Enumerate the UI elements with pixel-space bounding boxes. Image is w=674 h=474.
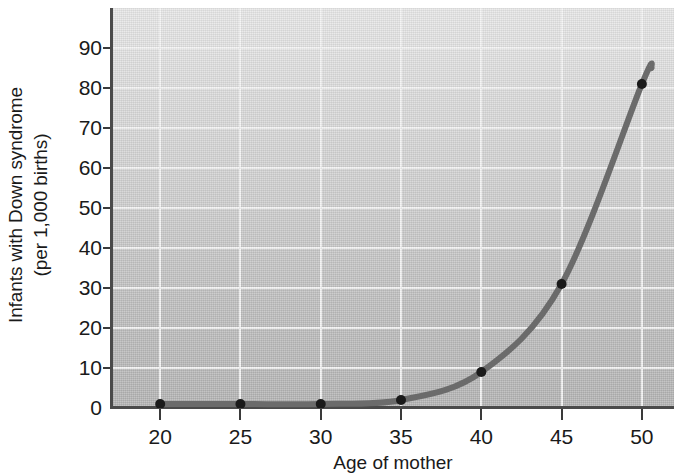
y-axis-title-line2: (per 1,000 births)	[28, 87, 53, 323]
gridline-horizontal	[112, 287, 674, 289]
gridline-vertical	[480, 8, 482, 408]
gridline-horizontal	[112, 167, 674, 169]
y-axis-tick-label: 0	[56, 397, 102, 418]
x-axis-tick-mark	[159, 409, 161, 420]
y-axis-tick-label: 10	[56, 357, 102, 378]
y-axis-tick-label: 40	[56, 237, 102, 258]
gridline-vertical	[641, 8, 643, 408]
plot-area	[112, 8, 674, 408]
x-axis-tick-label: 40	[451, 425, 511, 449]
x-axis-title: Age of mother	[112, 452, 674, 474]
y-axis-tick-label: 20	[56, 317, 102, 338]
y-axis-spine	[110, 8, 113, 409]
x-axis-tick-mark	[480, 409, 482, 420]
gridline-horizontal	[112, 127, 674, 129]
y-axis-tick-labels: 0102030405060708090	[56, 0, 102, 474]
x-axis-tick-mark	[239, 409, 241, 420]
x-axis-spine	[110, 406, 674, 409]
y-axis-tick-label: 60	[56, 157, 102, 178]
y-axis-tick-label: 80	[56, 77, 102, 98]
y-axis-tick-label: 30	[56, 277, 102, 298]
gridline-horizontal	[112, 87, 674, 89]
y-axis-title-line1: Infants with Down syndrome	[5, 87, 26, 323]
chart-figure: Infants with Down syndrome (per 1,000 bi…	[0, 0, 674, 474]
x-axis-tick-mark	[561, 409, 563, 420]
x-axis-tick-label: 25	[210, 425, 270, 449]
x-axis-tick-label: 50	[612, 425, 672, 449]
x-axis-tick-mark	[320, 409, 322, 420]
y-axis-tick-label: 50	[56, 197, 102, 218]
y-axis-tick-label: 70	[56, 117, 102, 138]
gridline-vertical	[239, 8, 241, 408]
x-axis-tick-mark	[400, 409, 402, 420]
y-axis-tick-label: 90	[56, 37, 102, 58]
gridline-horizontal	[112, 367, 674, 369]
y-axis-title: Infants with Down syndrome (per 1,000 bi…	[0, 0, 56, 410]
gridline-vertical	[159, 8, 161, 408]
x-axis-tick-mark	[641, 409, 643, 420]
gridline-horizontal	[112, 247, 674, 249]
gridline-horizontal	[112, 207, 674, 209]
gridline-horizontal	[112, 47, 674, 49]
gridline-vertical	[400, 8, 402, 408]
x-axis-tick-label: 35	[371, 425, 431, 449]
x-axis-tick-label: 45	[532, 425, 592, 449]
gridline-vertical	[561, 8, 563, 408]
gridline-horizontal	[112, 327, 674, 329]
x-axis-tick-label: 20	[130, 425, 190, 449]
gridline-vertical	[320, 8, 322, 408]
x-axis-tick-label: 30	[291, 425, 351, 449]
